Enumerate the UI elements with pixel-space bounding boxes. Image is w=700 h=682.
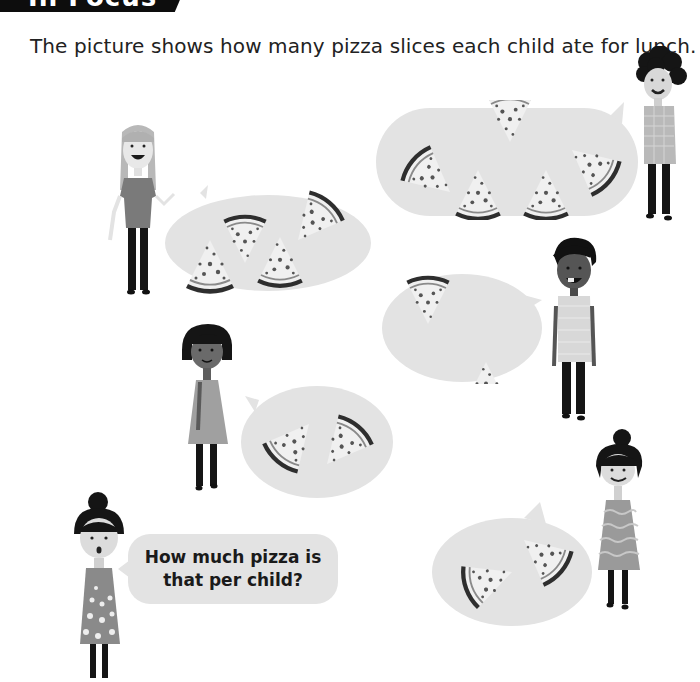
- child-boy-curly-hair: [630, 46, 692, 222]
- child-boy-dark-hair: [548, 236, 604, 422]
- speech-bubble-5-slices: [372, 100, 642, 220]
- speech-bubble-2-slices-a: [380, 272, 550, 384]
- speech-bubble-4-slices: [160, 185, 375, 295]
- question-line-1: How much pizza is: [145, 546, 322, 569]
- child-girl-bun-left: [72, 490, 130, 680]
- banner-label: In Focus: [28, 0, 157, 10]
- section-banner: In Focus: [0, 0, 190, 12]
- speech-bubble-2-slices-c: [428, 502, 596, 628]
- question-line-2: that per child?: [163, 569, 303, 592]
- child-girl-long-hair: [108, 120, 178, 298]
- speech-bubble-2-slices-b: [237, 382, 395, 500]
- question-speech-bubble: How much pizza is that per child?: [128, 534, 338, 604]
- child-girl-bun-right: [590, 426, 646, 610]
- intro-text: The picture shows how many pizza slices …: [30, 34, 696, 58]
- child-girl-bob-hair: [178, 320, 240, 492]
